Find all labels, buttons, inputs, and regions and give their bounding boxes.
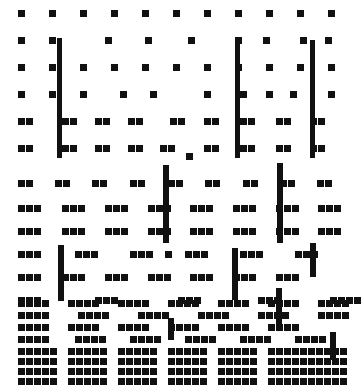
matrix-cell: [316, 358, 323, 365]
matrix-cell: [284, 145, 291, 152]
matrix-cell: [92, 300, 99, 307]
matrix-cell: [218, 348, 225, 355]
matrix-cell: [176, 368, 183, 375]
matrix-cell: [218, 368, 225, 375]
matrix-cell: [176, 300, 183, 307]
matrix-cell: [156, 274, 163, 281]
matrix-cell: [145, 37, 152, 44]
matrix-cell: [332, 378, 339, 385]
matrix-cell: [234, 324, 241, 331]
matrix-cell: [332, 368, 339, 375]
matrix-cell: [340, 378, 347, 385]
matrix-cell: [266, 64, 273, 71]
matrix-cell: [18, 228, 25, 235]
matrix-cell: [118, 300, 125, 307]
matrix-cell: [258, 297, 265, 304]
matrix-cell: [318, 118, 325, 125]
matrix-cell: [80, 10, 87, 17]
matrix-cell: [92, 378, 99, 385]
matrix-cell: [292, 368, 299, 375]
matrix-cell: [234, 358, 241, 365]
matrix-cell: [42, 358, 49, 365]
matrix-cell: [218, 300, 225, 307]
matrix-cell: [242, 300, 249, 307]
matrix-cell: [18, 378, 25, 385]
matrix-cell: [103, 145, 110, 152]
matrix-cell: [308, 348, 315, 355]
matrix-cell: [212, 118, 219, 125]
matrix-cell: [184, 378, 191, 385]
matrix-cell: [121, 274, 128, 281]
matrix-cell: [26, 118, 33, 125]
matrix-cell: [192, 358, 199, 365]
matrix-cell: [325, 37, 332, 44]
matrix-cell: [316, 348, 323, 355]
matrix-cell: [148, 228, 155, 235]
matrix-cell: [248, 145, 255, 152]
matrix-cell: [226, 348, 233, 355]
matrix-cell: [284, 324, 291, 331]
matrix-cell: [192, 368, 199, 375]
matrix-cell: [249, 228, 256, 235]
matrix-cell: [138, 251, 145, 258]
matrix-cell: [49, 64, 56, 71]
matrix-cell: [18, 274, 25, 281]
matrix-cell: [113, 205, 120, 212]
matrix-cell: [118, 348, 125, 355]
matrix-cell: [308, 368, 315, 375]
vertical-bar: [163, 165, 169, 243]
matrix-cell: [240, 118, 247, 125]
matrix-cell: [134, 348, 141, 355]
matrix-cell: [105, 37, 112, 44]
matrix-cell: [118, 368, 125, 375]
matrix-cell: [83, 251, 90, 258]
matrix-cell: [49, 91, 56, 98]
matrix-cell: [70, 145, 77, 152]
matrix-cell: [121, 228, 128, 235]
matrix-cell: [218, 324, 225, 331]
matrix-cell: [34, 312, 41, 319]
matrix-cell: [34, 324, 41, 331]
matrix-cell: [126, 368, 133, 375]
matrix-cell: [76, 324, 83, 331]
matrix-cell: [142, 324, 149, 331]
matrix-cell: [328, 91, 335, 98]
matrix-cell: [295, 336, 302, 343]
vertical-bar: [276, 288, 282, 326]
matrix-cell: [226, 358, 233, 365]
matrix-cell: [91, 251, 98, 258]
matrix-cell: [268, 358, 275, 365]
matrix-cell: [62, 118, 69, 125]
matrix-cell: [300, 368, 307, 375]
matrix-cell: [134, 378, 141, 385]
matrix-cell: [68, 358, 75, 365]
matrix-cell: [76, 378, 83, 385]
matrix-cell: [138, 336, 145, 343]
matrix-cell: [192, 378, 199, 385]
matrix-cell: [198, 228, 205, 235]
matrix-cell: [276, 145, 283, 152]
matrix-cell: [146, 312, 153, 319]
matrix-cell: [204, 91, 211, 98]
matrix-cell: [34, 336, 41, 343]
matrix-cell: [95, 118, 102, 125]
matrix-cell: [297, 10, 304, 17]
matrix-cell: [284, 300, 291, 307]
matrix-cell: [248, 251, 255, 258]
vertical-bar: [57, 38, 62, 158]
matrix-cell: [214, 312, 221, 319]
matrix-cell: [326, 228, 333, 235]
matrix-cell: [303, 251, 310, 258]
vertical-bar: [277, 163, 283, 243]
matrix-cell: [185, 251, 192, 258]
vertical-bar: [232, 248, 238, 300]
matrix-cell: [42, 324, 49, 331]
matrix-cell: [249, 274, 256, 281]
matrix-cell: [49, 37, 56, 44]
matrix-cell: [34, 205, 41, 212]
matrix-cell: [126, 348, 133, 355]
matrix-cell: [276, 378, 283, 385]
matrix-cell: [55, 180, 62, 187]
matrix-cell: [76, 358, 83, 365]
matrix-cell: [50, 348, 57, 355]
